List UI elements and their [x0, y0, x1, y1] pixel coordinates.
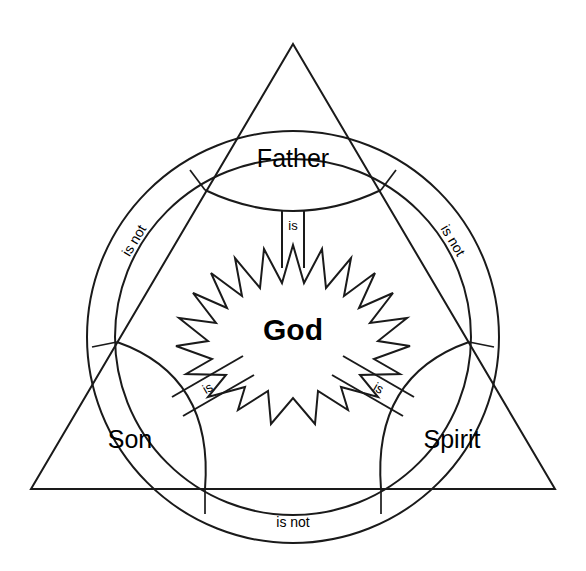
spirit-compartment-arc: [380, 342, 469, 489]
relation-label-son-spirit: is not: [276, 514, 310, 530]
relation-label-spirit-god: is: [371, 379, 387, 397]
father-compartment-arc: [205, 190, 381, 211]
node-label-father: Father: [257, 144, 329, 172]
band-cap-spirit-outer: [469, 342, 494, 347]
node-label-son: Son: [108, 425, 152, 453]
shield-of-the-trinity-svg: Father Son Spirit God is is is is not is…: [0, 0, 586, 571]
node-label-god: God: [263, 313, 323, 346]
relation-label-father-god: is: [288, 218, 298, 233]
relation-label-father-son: is not: [118, 222, 149, 259]
relation-label-son-god: is: [200, 379, 216, 397]
node-label-spirit: Spirit: [424, 425, 481, 453]
son-compartment-arc: [117, 342, 206, 489]
trinity-shield-diagram: Father Son Spirit God is is is is not is…: [0, 0, 586, 571]
main-triangle: [31, 44, 555, 489]
band-cap-son-outer: [92, 342, 117, 347]
